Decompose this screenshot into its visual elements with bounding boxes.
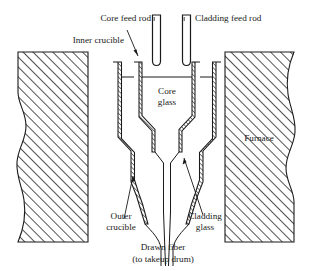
glass-stream [155, 152, 179, 212]
cladding-glass-label-line2: glass [196, 222, 215, 232]
double-crucible-diagram: Furnace [0, 0, 313, 271]
cladding-glass-label-line1: Cladding [188, 211, 222, 221]
core-feed-rod-label: Core feed rod [100, 13, 151, 23]
furnace-label: Furnace [244, 133, 274, 143]
outer-crucible-label-line1: Outer [111, 211, 132, 221]
core-feed-rod [153, 15, 161, 66]
drawn-fiber-label-line1: Drawn fiber [141, 242, 186, 252]
outer-crucible-label-line2: crucible [106, 222, 136, 232]
cladding-feed-rod-label: Cladding feed rod [195, 13, 262, 23]
figure-canvas: Furnace [0, 0, 313, 271]
cladding-feed-rod [183, 15, 191, 66]
furnace-block-left [17, 52, 88, 242]
core-glass-label-line1: Core [158, 86, 176, 96]
inner-crucible-label: Inner crucible [73, 35, 124, 45]
drawn-fiber-label-line2: (to takeup drum) [132, 254, 194, 264]
furnace-block-right: Furnace [225, 52, 295, 242]
inner-crucible [134, 62, 200, 152]
core-glass-label-line2: glass [158, 97, 177, 107]
